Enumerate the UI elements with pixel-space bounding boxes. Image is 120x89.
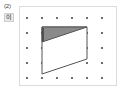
figure-page: (2) 이 [0,0,120,89]
label-column: (2) 이 [0,0,19,89]
grid-dot [86,62,88,64]
grid-dot [71,77,73,79]
grid-dot [56,17,58,19]
grid-dot [101,32,103,34]
grid-dot [101,77,103,79]
grid-dot [26,17,28,19]
grid-dot [26,62,28,64]
figure-frame [19,6,117,86]
grid-dot [41,77,43,79]
grid-dot [86,77,88,79]
grid-dot [101,17,103,19]
grid-dot [26,77,28,79]
grid-dot [26,47,28,49]
grid-dot [71,17,73,19]
grid-dot [86,17,88,19]
grid-dot [101,62,103,64]
grid-dot [101,47,103,49]
grid-dot [56,77,58,79]
problem-number-label: (2) [4,3,11,10]
grid-dot [41,17,43,19]
dot-grid-quadrilateral-figure [20,7,117,86]
grid-dot [26,32,28,34]
item-marker-label: 이 [4,13,14,22]
